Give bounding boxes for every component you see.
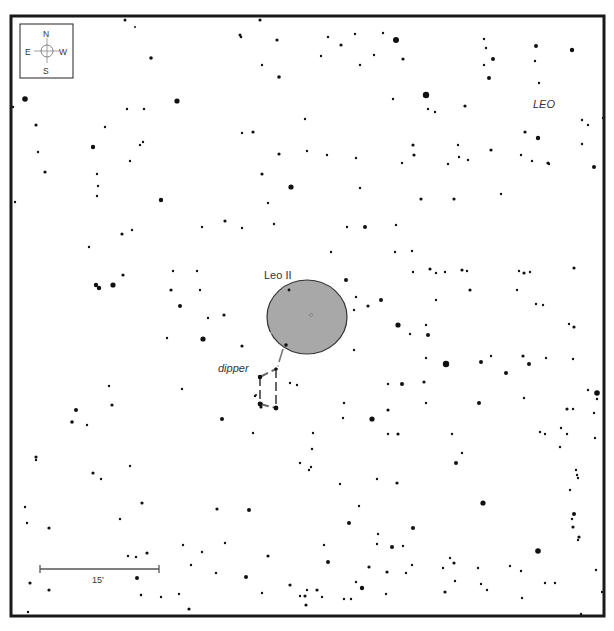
star: [166, 337, 168, 339]
star: [258, 18, 261, 21]
star: [544, 582, 546, 584]
star: [251, 130, 254, 133]
star: [178, 304, 182, 308]
star: [97, 185, 99, 187]
star: [489, 148, 492, 151]
star: [377, 533, 379, 535]
star: [310, 466, 312, 468]
star: [509, 565, 511, 567]
star: [412, 153, 415, 156]
star: [534, 60, 536, 62]
star: [143, 108, 145, 110]
star: [427, 108, 429, 110]
star: [110, 403, 113, 406]
star: [35, 459, 37, 461]
star: [559, 446, 561, 448]
star: [577, 535, 580, 538]
star: [308, 469, 310, 471]
star: [315, 588, 318, 591]
star: [267, 202, 269, 204]
star: [172, 270, 174, 272]
star: [296, 384, 298, 386]
star: [241, 227, 243, 229]
star: [24, 506, 26, 508]
star: [577, 539, 579, 541]
star: [355, 157, 357, 159]
star: [443, 361, 449, 367]
star: [260, 172, 263, 175]
galaxy-leo-ii[interactable]: [267, 280, 347, 354]
star: [70, 420, 74, 424]
star: [572, 408, 574, 410]
star: [311, 448, 313, 450]
constellation-label: LEO: [533, 98, 555, 110]
star: [97, 286, 101, 290]
star: [277, 152, 280, 155]
star: [587, 389, 589, 391]
star: [575, 469, 577, 471]
star: [379, 298, 383, 302]
star: [145, 551, 148, 554]
star: [139, 144, 141, 146]
star: [304, 118, 306, 120]
star: [149, 56, 153, 60]
star: [178, 593, 180, 595]
star: [367, 565, 370, 568]
star: [74, 408, 78, 412]
star: [466, 270, 468, 272]
star: [326, 560, 330, 564]
scale-bar-label: 15': [92, 575, 104, 585]
star: [359, 187, 361, 189]
star: [581, 143, 583, 145]
star: [458, 156, 460, 158]
star: [270, 332, 272, 334]
star: [222, 313, 225, 316]
star: [373, 54, 375, 56]
compass-rose: N S E W: [20, 24, 73, 78]
star: [182, 544, 184, 546]
star: [96, 195, 98, 197]
star: [100, 478, 102, 480]
star: [538, 82, 540, 84]
star: [461, 452, 463, 454]
star: [422, 380, 425, 383]
star: [127, 555, 129, 557]
star: [181, 388, 183, 390]
star: [405, 572, 407, 574]
asterism-star: [274, 406, 279, 411]
star: [521, 597, 523, 599]
star: [485, 47, 487, 49]
star: [451, 433, 453, 435]
star: [587, 124, 589, 126]
star: [47, 588, 50, 591]
star: [544, 433, 546, 435]
star: [120, 232, 123, 235]
star: [14, 201, 16, 203]
star: [363, 225, 367, 229]
star: [576, 474, 578, 476]
star: [323, 544, 325, 546]
star: [27, 611, 29, 613]
star: [344, 278, 348, 282]
star: [277, 75, 281, 79]
star: [376, 478, 378, 480]
star: [339, 43, 342, 46]
star: [593, 412, 595, 414]
star: [581, 119, 583, 121]
star: [435, 299, 437, 301]
star: [110, 282, 115, 287]
star: [425, 357, 427, 359]
star: [131, 229, 133, 231]
compass-east: E: [25, 47, 31, 57]
star: [358, 505, 360, 507]
star: [240, 36, 243, 39]
star: [359, 64, 361, 66]
star: [516, 289, 518, 291]
star: [554, 582, 556, 584]
star: [401, 162, 403, 164]
star: [480, 500, 485, 505]
star: [542, 304, 544, 306]
star: [419, 197, 422, 200]
star: [207, 317, 209, 319]
star: [463, 104, 466, 107]
